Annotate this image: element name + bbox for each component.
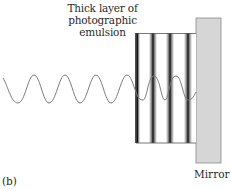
diagram-canvas: [0, 0, 231, 190]
panel-label: (b): [2, 175, 17, 187]
emulsion-block: [135, 33, 196, 143]
mirror: [196, 18, 221, 163]
interference-fringe: [166, 33, 174, 143]
incident-light-wave: [3, 75, 136, 103]
interference-fringe: [184, 33, 192, 143]
mirror-label: Mirror: [194, 168, 230, 180]
interference-fringe: [149, 33, 157, 143]
